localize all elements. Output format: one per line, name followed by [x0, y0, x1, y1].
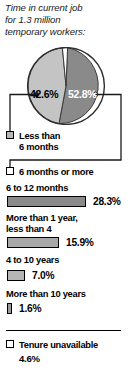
breakdown-label-more-than-1-year: More than 1 year, less than 4	[6, 213, 78, 234]
pie-chart-svg	[21, 47, 111, 125]
section-divider	[6, 330, 121, 331]
breakdown-label-6-to-12-months: 6 to 12 months	[6, 183, 68, 194]
breakdown-value-4-to-10-years: 7.0%	[32, 270, 54, 281]
legend-label-line-1: Less than	[19, 131, 60, 142]
legend-swatch-less-than-six-icon	[6, 131, 14, 139]
title-line-2: for 1.3 million	[5, 14, 129, 26]
breakdown-bar-row-6-to-12-months: 28.3%	[7, 196, 121, 207]
breakdown-label-line-1: More than 10 years	[6, 289, 86, 300]
legend-label-less-than-six: Less than 6 months	[19, 131, 60, 152]
footer-value-tenure-unavailable: 4.6%	[19, 353, 40, 364]
pie-label-less-than-six: 42.6%	[30, 88, 58, 100]
legend-label-line-2: 6 months	[19, 142, 60, 153]
breakdown-value-more-than-1-year: 15.9%	[66, 237, 94, 248]
title-line-3: temporary workers:	[5, 26, 129, 38]
breakdown-value-more-than-10-years: 1.6%	[19, 303, 41, 314]
legend-label-six-or-more: 6 months or more	[19, 167, 94, 178]
breakdown-value-6-to-12-months: 28.3%	[93, 196, 121, 207]
title-line-1: Time in current job	[5, 2, 129, 14]
breakdown-bar-more-than-10-years	[7, 303, 12, 314]
legend-item-less-than-six[interactable]: Less than 6 months	[6, 131, 60, 152]
breakdown-label-line-1: More than 1 year,	[6, 213, 78, 224]
footer-label-line-1: Tenure unavailable	[19, 340, 98, 351]
breakdown-label-line-1: 4 to 10 years	[6, 255, 59, 266]
breakdown-bar-4-to-10-years	[7, 270, 25, 281]
legend-item-six-or-more[interactable]: 6 months or more	[6, 167, 94, 178]
legend-label-line-1: 6 months or more	[19, 167, 94, 178]
pie-chart: 42.6% 52.8%	[21, 47, 111, 125]
breakdown-label-line-1: 6 to 12 months	[6, 183, 68, 194]
footer-label-tenure-unavailable: Tenure unavailable	[19, 340, 98, 351]
breakdown-label-line-2: less than 4	[6, 224, 78, 235]
page-title: Time in current job for 1.3 million temp…	[5, 2, 129, 39]
pie-slice-less-than-six	[28, 48, 66, 124]
breakdown-label-more-than-10-years: More than 10 years	[6, 289, 86, 300]
breakdown-bar-row-more-than-10-years: 1.6%	[7, 303, 41, 314]
breakdown-label-4-to-10-years: 4 to 10 years	[6, 255, 59, 266]
footer-item-tenure-unavailable[interactable]: Tenure unavailable	[6, 340, 98, 351]
footer-swatch-tenure-unavailable-icon	[6, 340, 14, 348]
pie-label-six-or-more: 52.8%	[68, 88, 96, 100]
breakdown-bar-more-than-1-year	[7, 237, 59, 248]
breakdown-bar-row-4-to-10-years: 7.0%	[7, 270, 54, 281]
breakdown-bar-6-to-12-months	[7, 196, 86, 207]
infographic-panel: Time in current job for 1.3 million temp…	[0, 0, 131, 375]
legend-swatch-six-or-more-icon	[6, 167, 14, 175]
breakdown-bar-row-more-than-1-year: 15.9%	[7, 237, 94, 248]
